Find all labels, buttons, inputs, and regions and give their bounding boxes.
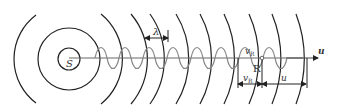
- receiver-point: [260, 56, 264, 60]
- outer-left-arc: [14, 15, 36, 103]
- receiver-velocity-top-label: vR: [245, 46, 255, 57]
- receiver-velocity-bottom-label: vR: [243, 73, 253, 84]
- wavelength-label: λ: [152, 26, 159, 37]
- diagram-svg: S λ R vR vR u u: [0, 0, 340, 112]
- source-label: S: [66, 58, 73, 69]
- axis-direction-label: u: [318, 46, 325, 56]
- doppler-diagram: S λ R vR vR u u: [0, 0, 340, 112]
- receiver-label: R: [253, 63, 261, 74]
- wave-speed-label: u: [281, 73, 287, 83]
